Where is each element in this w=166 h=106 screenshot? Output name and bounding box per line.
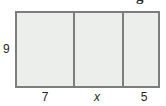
cropped-heading-glyph: g <box>136 0 144 4</box>
width-label-left: 7 <box>33 91 57 103</box>
width-label-right: 5 <box>132 91 156 103</box>
composite-rectangle <box>15 11 160 88</box>
divider-line-2 <box>122 13 124 86</box>
width-label-middle: x <box>85 91 109 103</box>
geometry-figure: g 9 7 x 5 <box>0 0 166 106</box>
divider-line-1 <box>73 13 75 86</box>
height-label: 9 <box>3 43 10 55</box>
